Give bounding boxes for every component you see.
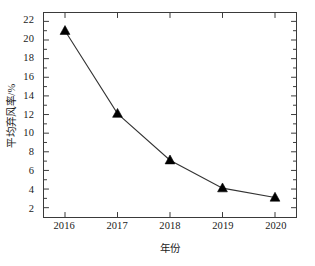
x-axis-title: 年份 xyxy=(43,240,297,255)
chart-figure: 平均弃风率/% 246810121416182022 2016201720182… xyxy=(0,0,315,266)
data-point-marker xyxy=(60,26,70,35)
x-tick-label: 2020 xyxy=(265,221,286,232)
y-tick-label: 6 xyxy=(29,166,34,177)
x-axis-tick-labels: 20162017201820192020 xyxy=(43,221,297,237)
y-tick-label: 22 xyxy=(23,15,34,26)
y-tick-label: 14 xyxy=(23,90,34,101)
y-tick-label: 2 xyxy=(29,203,34,214)
y-tick-label: 10 xyxy=(23,128,34,139)
y-tick-label: 20 xyxy=(23,34,34,45)
x-tick-label: 2016 xyxy=(53,221,74,232)
plot-canvas xyxy=(44,13,296,217)
x-tick-label: 2018 xyxy=(159,221,180,232)
plot-area xyxy=(43,12,297,218)
data-point-marker xyxy=(165,155,175,164)
x-tick-label: 2017 xyxy=(106,221,127,232)
y-tick-label: 4 xyxy=(29,185,34,196)
y-tick-label: 8 xyxy=(29,147,34,158)
y-tick-label: 16 xyxy=(23,72,34,83)
y-tick-label: 12 xyxy=(23,109,34,120)
data-point-marker xyxy=(113,108,123,117)
y-axis-tick-labels: 246810121416182022 xyxy=(0,12,39,218)
data-point-marker xyxy=(218,183,228,192)
series-line xyxy=(65,31,275,198)
y-tick-label: 18 xyxy=(23,53,34,64)
x-tick-label: 2019 xyxy=(212,221,233,232)
